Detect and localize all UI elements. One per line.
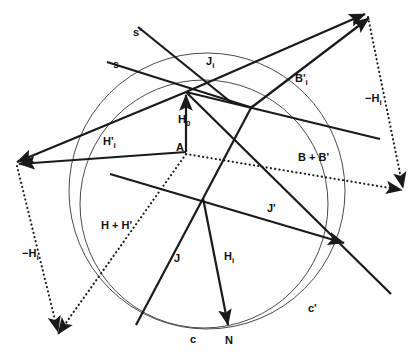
label-s: s bbox=[113, 58, 119, 70]
label-s_prime: s' bbox=[133, 26, 142, 38]
label-B_plus_B_prime: B + B' bbox=[298, 151, 329, 163]
label-B_prime_i: B'i bbox=[295, 72, 308, 87]
label-minus_H_i_right: −Hi bbox=[365, 92, 382, 107]
labels-group: s'sJiB'i−HiH0AH'iB + B'J'H + H'−HiJHic'c… bbox=[22, 26, 382, 346]
label-N: N bbox=[225, 334, 233, 346]
label-H_i: Hi bbox=[224, 250, 234, 265]
diagram-canvas: s'sJiB'i−HiH0AH'iB + B'J'H + H'−HiJHic'c… bbox=[0, 0, 419, 359]
label-H_plus_H_prime: H + H' bbox=[101, 219, 132, 231]
vector-B-plus-B-prime-dotted bbox=[186, 154, 402, 190]
label-A: A bbox=[176, 141, 184, 153]
vector-J-prime-vector bbox=[110, 174, 344, 243]
label-J: J bbox=[174, 252, 180, 264]
vector-B-prime-i-vector bbox=[252, 18, 369, 107]
vector-H-plus-H-prime-dotted bbox=[58, 154, 186, 334]
vector-upper-right-thin-ray bbox=[186, 92, 380, 139]
label-J_prime: J' bbox=[267, 202, 276, 214]
label-H_0: H0 bbox=[178, 113, 191, 128]
vector-s-ray bbox=[107, 62, 253, 108]
label-c: c bbox=[190, 333, 196, 345]
vector-diagram: s'sJiB'i−HiH0AH'iB + B'J'H + H'−HiJHic'c… bbox=[0, 0, 419, 359]
label-J_i: Ji bbox=[206, 55, 214, 70]
label-H_prime_i: H'i bbox=[103, 135, 116, 150]
label-c_prime: c' bbox=[308, 302, 317, 314]
vector-H-prime-i-vector bbox=[19, 152, 186, 164]
label-minus_H_i_left: −Hi bbox=[22, 247, 39, 262]
